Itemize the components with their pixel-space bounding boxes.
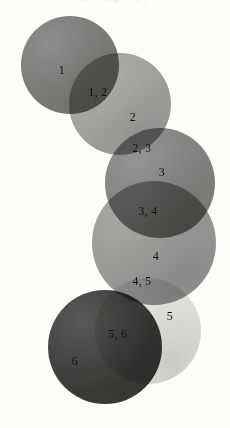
circle-stack	[0, 0, 230, 428]
circle-6	[48, 290, 162, 404]
figure-root: (f) e n g , l a y 1234561, 22, 33, 44, 5…	[0, 0, 230, 428]
